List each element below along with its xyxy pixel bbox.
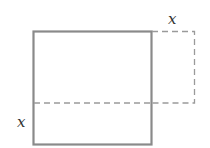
extension-rectangle-dashed <box>152 32 195 104</box>
label-x-top-right: x <box>168 10 177 28</box>
square-solid <box>34 32 152 145</box>
diagram-canvas: x x <box>0 0 210 148</box>
label-x-left-bottom: x <box>17 113 26 131</box>
